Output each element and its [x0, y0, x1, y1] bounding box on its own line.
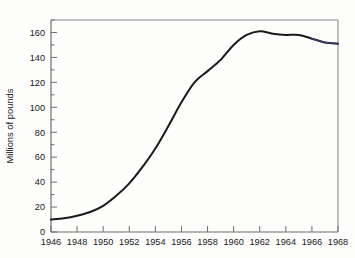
- x-ticklabel: 1950: [93, 237, 113, 247]
- chart-figure: 020406080100120140160 194619481950195219…: [0, 0, 355, 258]
- y-ticklabel: 160: [30, 28, 45, 38]
- y-ticklabel: 60: [35, 152, 45, 162]
- x-ticklabel: 1956: [171, 237, 191, 247]
- y-ticklabel: 40: [35, 177, 45, 187]
- y-axis-title: Millions of pounds: [4, 88, 15, 163]
- x-ticklabel: 1968: [328, 237, 348, 247]
- x-axis-ticks: [51, 226, 338, 232]
- x-ticklabel: 1964: [276, 237, 296, 247]
- y-axis-ticklabels: 020406080100120140160: [30, 28, 45, 238]
- x-ticklabel: 1966: [302, 237, 322, 247]
- x-ticklabel: 1946: [41, 237, 61, 247]
- x-ticklabel: 1954: [145, 237, 165, 247]
- series-line-tail-segment: [312, 39, 338, 44]
- series-line-millions-of-pounds: [51, 31, 338, 219]
- y-ticklabel: 80: [35, 128, 45, 138]
- plot-frame: [51, 20, 338, 232]
- y-ticklabel: 100: [30, 103, 45, 113]
- x-axis-ticklabels: 1946194819501952195419561958196019621964…: [41, 237, 348, 247]
- y-ticklabel: 120: [30, 78, 45, 88]
- x-ticklabel: 1958: [197, 237, 217, 247]
- line-chart: 020406080100120140160 194619481950195219…: [0, 0, 355, 258]
- x-ticklabel: 1948: [67, 237, 87, 247]
- y-ticklabel: 20: [35, 202, 45, 212]
- x-ticklabel: 1962: [250, 237, 270, 247]
- x-ticklabel: 1952: [119, 237, 139, 247]
- y-ticklabel: 0: [40, 227, 45, 237]
- y-axis-ticks: [51, 32, 57, 232]
- y-ticklabel: 140: [30, 53, 45, 63]
- x-ticklabel: 1960: [223, 237, 243, 247]
